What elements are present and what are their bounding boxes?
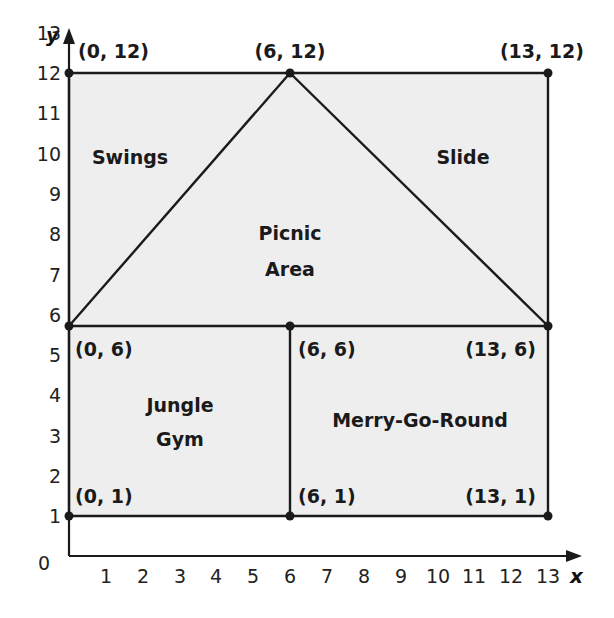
point-13-1 <box>544 512 553 521</box>
region-merry-go-round: Merry-Go-Round <box>332 409 508 431</box>
region-slide: Slide <box>436 146 489 168</box>
x-tick-labels: 1 2 3 4 5 6 7 8 9 10 11 12 13 <box>100 565 560 587</box>
svg-text:13: 13 <box>37 22 61 44</box>
point-13-12 <box>544 69 553 78</box>
svg-text:6: 6 <box>49 304 61 326</box>
svg-text:11: 11 <box>37 102 61 124</box>
region-swings: Swings <box>92 146 168 168</box>
point-6-6 <box>286 322 295 331</box>
coord-label-13-12: (13, 12) <box>500 40 584 62</box>
coord-label-0-12: (0, 12) <box>78 40 149 62</box>
svg-text:5: 5 <box>247 565 259 587</box>
x-axis-arrow-icon <box>566 550 582 562</box>
coord-label-6-6: (6, 6) <box>298 338 356 360</box>
x-axis-label: x <box>569 564 584 588</box>
coord-label-13-1: (13, 1) <box>465 485 536 507</box>
svg-text:3: 3 <box>174 565 186 587</box>
svg-text:2: 2 <box>49 465 61 487</box>
svg-text:5: 5 <box>49 344 61 366</box>
playground-coordinate-diagram: y x 0 1 2 3 4 5 6 7 8 9 10 11 12 13 1 2 … <box>0 0 614 618</box>
svg-text:11: 11 <box>462 565 486 587</box>
svg-text:9: 9 <box>49 183 61 205</box>
point-6-1 <box>286 512 295 521</box>
svg-text:6: 6 <box>284 565 296 587</box>
region-jungle-line2: Gym <box>156 428 204 450</box>
svg-text:8: 8 <box>49 223 61 245</box>
svg-text:2: 2 <box>137 565 149 587</box>
svg-text:12: 12 <box>37 62 61 84</box>
point-0-6 <box>65 322 74 331</box>
svg-text:10: 10 <box>426 565 450 587</box>
coord-label-6-12: (6, 12) <box>255 40 326 62</box>
region-jungle-line1: Jungle <box>144 394 213 416</box>
svg-text:8: 8 <box>358 565 370 587</box>
svg-text:13: 13 <box>536 565 560 587</box>
svg-text:1: 1 <box>49 505 61 527</box>
svg-text:3: 3 <box>49 425 61 447</box>
svg-text:7: 7 <box>49 264 61 286</box>
svg-text:4: 4 <box>210 565 222 587</box>
svg-text:12: 12 <box>499 565 523 587</box>
point-0-12 <box>65 69 74 78</box>
y-axis-arrow-icon <box>63 28 75 44</box>
svg-text:4: 4 <box>49 384 61 406</box>
region-picnic-line1: Picnic <box>258 222 321 244</box>
coord-label-6-1: (6, 1) <box>298 485 356 507</box>
svg-text:1: 1 <box>100 565 112 587</box>
coord-label-13-6: (13, 6) <box>465 338 536 360</box>
svg-text:9: 9 <box>395 565 407 587</box>
playground-fill <box>69 73 548 516</box>
svg-text:7: 7 <box>321 565 333 587</box>
coord-label-0-6: (0, 6) <box>75 338 133 360</box>
svg-text:10: 10 <box>37 143 61 165</box>
point-0-1 <box>65 512 74 521</box>
region-picnic-line2: Area <box>265 258 315 280</box>
point-6-12 <box>286 69 295 78</box>
coord-label-0-1: (0, 1) <box>75 485 133 507</box>
origin-label: 0 <box>38 552 50 574</box>
point-13-6 <box>544 322 553 331</box>
y-tick-labels: 1 2 3 4 5 6 7 8 9 10 11 12 13 <box>37 22 61 527</box>
